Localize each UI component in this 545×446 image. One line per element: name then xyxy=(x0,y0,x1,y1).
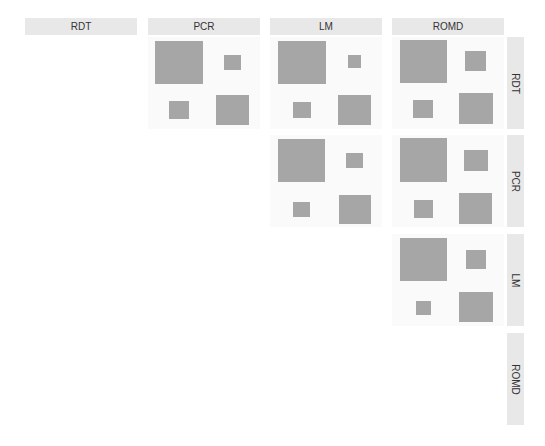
box-bottom-right xyxy=(338,95,371,125)
row-strip-romd: ROMD xyxy=(507,333,524,425)
column-strip-romd: ROMD xyxy=(392,18,504,35)
box-bottom-left xyxy=(416,301,431,315)
box-top-right xyxy=(346,153,363,168)
box-top-left xyxy=(278,41,326,84)
box-top-right xyxy=(465,51,486,71)
box-top-left xyxy=(400,40,447,83)
row-strip-pcr: PCR xyxy=(507,135,524,227)
box-bottom-left xyxy=(169,101,189,119)
box-top-left xyxy=(400,238,447,281)
box-top-right xyxy=(224,55,241,70)
row-label: RDT xyxy=(510,73,521,94)
box-top-left xyxy=(155,41,203,84)
box-top-left xyxy=(400,138,447,182)
column-strip-pcr: PCR xyxy=(148,18,260,35)
box-bottom-left xyxy=(414,200,433,218)
column-label: PCR xyxy=(193,21,214,32)
box-bottom-left xyxy=(413,100,433,118)
box-top-right xyxy=(348,55,361,68)
column-label: RDT xyxy=(71,21,92,32)
box-bottom-left xyxy=(293,202,310,217)
column-strip-lm: LM xyxy=(270,18,382,35)
row-label: LM xyxy=(510,273,521,287)
box-top-right xyxy=(466,250,486,269)
box-bottom-right xyxy=(459,193,492,224)
box-bottom-right xyxy=(216,95,249,125)
box-bottom-right xyxy=(339,195,371,224)
box-top-right xyxy=(464,150,488,171)
column-label: LM xyxy=(319,21,333,32)
box-bottom-right xyxy=(459,292,493,322)
row-strip-lm: LM xyxy=(507,234,524,326)
column-strip-rdt: RDT xyxy=(25,18,137,35)
box-top-left xyxy=(278,139,325,182)
box-bottom-left xyxy=(293,102,311,118)
column-label: ROMD xyxy=(433,21,464,32)
row-label: ROMD xyxy=(510,364,521,395)
box-bottom-right xyxy=(459,93,493,124)
row-label: PCR xyxy=(510,170,521,191)
row-strip-rdt: RDT xyxy=(507,37,524,129)
